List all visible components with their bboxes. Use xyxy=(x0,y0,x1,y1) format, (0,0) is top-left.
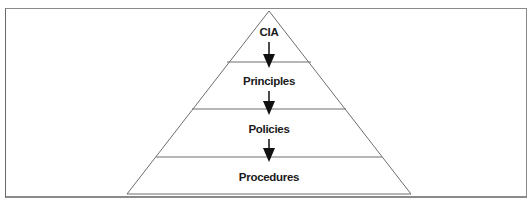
hierarchy-pyramid: CIA Principles Policies Procedures xyxy=(0,0,532,203)
arrow-down-icon xyxy=(263,91,275,115)
arrow-down-icon xyxy=(263,42,275,68)
tier-label-procedures: Procedures xyxy=(239,171,299,183)
tier-label-cia: CIA xyxy=(260,26,279,38)
arrow-down-icon xyxy=(263,139,275,162)
tier-label-principles: Principles xyxy=(243,75,295,87)
tier-label-policies: Policies xyxy=(248,123,289,135)
